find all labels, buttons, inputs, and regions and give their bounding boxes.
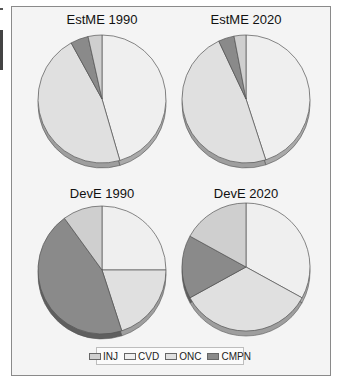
legend-swatch-cvd xyxy=(124,353,136,360)
legend-item-onc: ONC xyxy=(165,351,201,362)
pie-deve-1990 xyxy=(38,206,166,339)
legend-item-inj: INJ xyxy=(89,351,118,362)
legend-label-cmpn: CMPN xyxy=(221,351,250,362)
legend-item-cmpn: CMPN xyxy=(207,351,250,362)
slice-cvd xyxy=(102,206,166,270)
legend-label-cvd: CVD xyxy=(138,351,159,362)
legend-swatch-cmpn xyxy=(207,353,219,360)
pie-charts xyxy=(0,0,342,384)
legend: INJ CVD ONC CMPN xyxy=(96,347,244,365)
pie-estme-2020 xyxy=(182,35,310,168)
legend-item-cvd: CVD xyxy=(124,351,159,362)
pie-deve-2020 xyxy=(182,203,310,336)
legend-label-inj: INJ xyxy=(103,351,118,362)
pie-estme-1990 xyxy=(38,35,166,168)
legend-swatch-inj xyxy=(89,353,101,360)
legend-swatch-onc xyxy=(165,353,177,360)
legend-label-onc: ONC xyxy=(179,351,201,362)
